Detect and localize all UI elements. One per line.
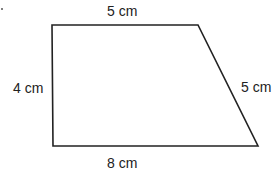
left-side-label: 4 cm xyxy=(13,80,43,96)
right-side-label: 5 cm xyxy=(241,79,271,95)
corner-dot xyxy=(1,8,3,10)
trapezoid-shape xyxy=(52,25,258,146)
top-side-label: 5 cm xyxy=(107,3,137,19)
bottom-side-label: 8 cm xyxy=(107,155,137,171)
